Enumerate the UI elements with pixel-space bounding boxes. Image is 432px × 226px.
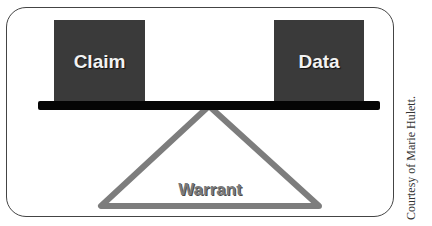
image-credit: Courtesy of Marie Hulett. bbox=[404, 96, 419, 220]
warrant-label: Warrant bbox=[160, 180, 260, 200]
balance-beam bbox=[38, 101, 380, 110]
